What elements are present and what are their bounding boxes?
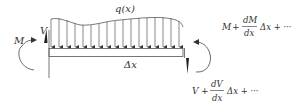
- svg-text:dx: dx: [212, 93, 222, 103]
- svg-text:V: V: [192, 86, 200, 96]
- right-shear-arrow-icon: [186, 58, 189, 74]
- beam-element-diagram: V M q(x) Δx M + dM dx Δx + ··· V + dV dx…: [0, 0, 303, 108]
- right-moment-arrow-icon: [196, 42, 210, 72]
- svg-text:M: M: [221, 22, 232, 32]
- right-moment-expression: M + dM dx Δx + ···: [221, 15, 292, 38]
- svg-text:Δx + ···: Δx + ···: [259, 22, 292, 32]
- svg-text:+: +: [232, 22, 240, 32]
- svg-text:dM: dM: [243, 15, 257, 25]
- svg-text:dx: dx: [244, 28, 254, 38]
- svg-text:Δx + ···: Δx + ···: [226, 86, 259, 96]
- svg-text:+: +: [201, 86, 209, 96]
- beam-segment: [49, 49, 183, 57]
- load-label: q(x): [115, 3, 135, 14]
- distributed-load-arrows: [51, 17, 179, 47]
- svg-text:dV: dV: [211, 79, 223, 89]
- length-label: Δx: [123, 59, 137, 70]
- right-shear-expression: V + dV dx Δx + ···: [192, 79, 259, 103]
- left-shear-label: V: [40, 25, 49, 36]
